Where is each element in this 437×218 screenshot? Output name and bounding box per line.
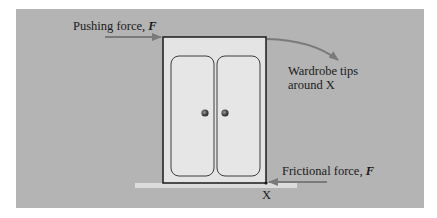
force-symbol: F: [366, 164, 374, 178]
left-door: [171, 56, 214, 176]
pushing-force-label: Pushing force, F: [73, 19, 157, 33]
right-knob-icon: [221, 109, 228, 116]
tipping-label-line2: around X: [288, 78, 358, 92]
frictional-force-label: Frictional force, F: [282, 164, 374, 178]
pivot-label: X: [262, 188, 271, 202]
wardrobe-diagram: [0, 0, 437, 218]
tip-arrow-icon: [267, 39, 338, 60]
pivot-point-icon: [264, 181, 267, 184]
tipping-label-line1: Wardrobe tips: [288, 64, 358, 78]
left-knob-icon: [201, 109, 208, 116]
force-symbol: F: [148, 19, 156, 33]
tipping-label: Wardrobe tips around X: [288, 64, 358, 92]
